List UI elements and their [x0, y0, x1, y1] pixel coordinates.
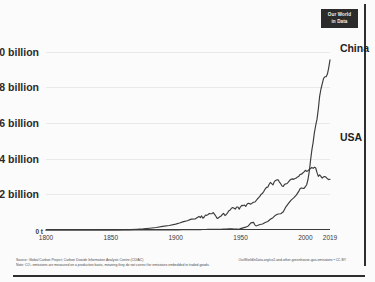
y-tick-label: 4 billion — [0, 153, 39, 165]
license-link[interactable]: OurWorldInData.org/co2-and-other-greenho… — [238, 258, 346, 263]
chart-page: Our World in Data 2 billion4 billion6 bi… — [0, 0, 375, 282]
x-tick-label: 1950 — [233, 234, 247, 241]
y-axis-zero-label: 0 t — [35, 228, 43, 235]
y-tick-label: 2 billion — [0, 188, 39, 200]
logo-line-2: in Data — [331, 19, 347, 25]
note-text: Note: CO₂ emissions are measured on a pr… — [16, 263, 346, 268]
series-line-usa — [46, 167, 330, 230]
series-label-china: China — [340, 42, 369, 54]
y-tick-label: 6 billion — [0, 117, 39, 129]
chart-footer: Source: Global Carbon Project; Carbon Di… — [16, 258, 346, 268]
series-line-china — [46, 60, 330, 230]
x-tick-label: 1900 — [168, 234, 182, 241]
our-world-in-data-logo[interactable]: Our World in Data — [321, 9, 358, 28]
x-tick-label: 1800 — [39, 234, 53, 241]
series-lines — [46, 34, 330, 230]
x-tick-label: 1850 — [104, 234, 118, 241]
page-rule-bottom — [13, 275, 365, 277]
series-label-usa: USA — [340, 131, 362, 143]
y-tick-label: 8 billion — [0, 81, 39, 93]
y-tick-label: 10 billion — [0, 46, 39, 58]
x-tick-label: 2000 — [298, 234, 312, 241]
plot-area: 2 billion4 billion6 billion8 billion10 b… — [46, 34, 330, 230]
x-tick-label: 2019 — [323, 234, 337, 241]
